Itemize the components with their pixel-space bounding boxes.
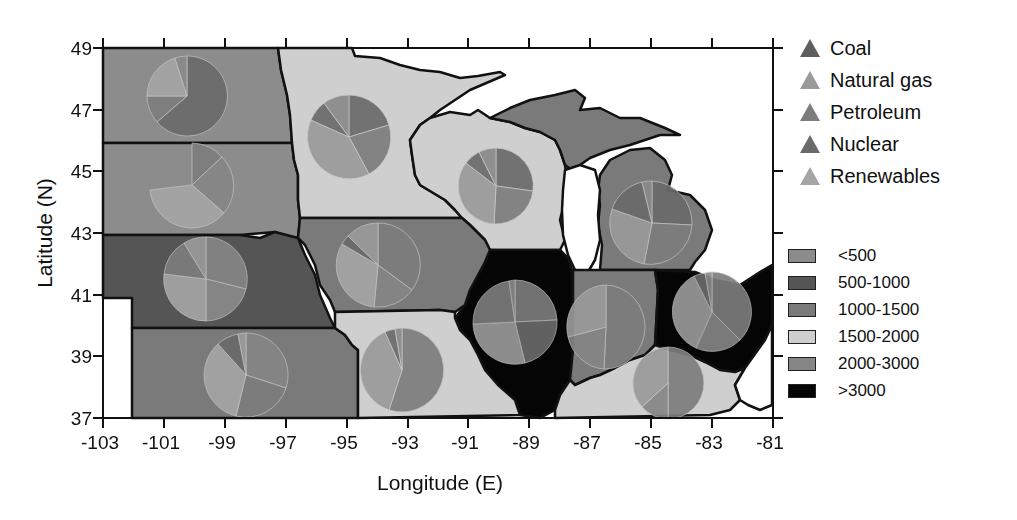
pie-kentucky xyxy=(633,347,704,419)
x-tick-label: -103 xyxy=(81,432,119,453)
x-tick-label: -99 xyxy=(208,432,235,453)
pie-kansas xyxy=(204,333,288,417)
pie-iowa xyxy=(336,223,420,307)
legend-item-lt500: <500 xyxy=(788,242,919,269)
x-tick-label: -91 xyxy=(451,432,478,453)
triangle-icon xyxy=(800,103,820,121)
legend-item-natural-gas: Natural gas xyxy=(800,64,940,96)
legend-item-1000-1500: 1000-1500 xyxy=(788,296,919,323)
y-tick-label: 43 xyxy=(71,223,92,244)
swatch-icon xyxy=(788,330,816,344)
y-tick-label: 39 xyxy=(71,346,92,367)
legend-label: 500-1000 xyxy=(838,273,910,293)
y-tick-labels: 49 47 45 43 41 39 37 xyxy=(71,38,92,429)
swatch-icon xyxy=(788,357,816,371)
pie-indiana xyxy=(567,285,645,369)
y-tick-label: 49 xyxy=(71,38,92,59)
x-tick-label: -85 xyxy=(634,432,661,453)
legend-label: Nuclear xyxy=(830,133,899,156)
pie-michigan xyxy=(610,181,692,264)
legend-item-coal: Coal xyxy=(800,32,940,64)
legend-label: Renewables xyxy=(830,165,940,188)
swatch-icon xyxy=(788,384,816,398)
energy-source-legend: Coal Natural gas Petroleum Nuclear Renew… xyxy=(800,32,940,192)
pie-north-dakota xyxy=(147,56,227,136)
pie-illinois xyxy=(473,280,557,364)
y-axis-title: Latitude (N) xyxy=(33,178,56,288)
legend-label: Petroleum xyxy=(830,101,921,124)
legend-label: 1000-1500 xyxy=(838,300,919,320)
legend-label: 2000-3000 xyxy=(838,354,919,374)
swatch-icon xyxy=(788,276,816,290)
y-tick-label: 47 xyxy=(71,100,92,121)
triangle-icon xyxy=(800,135,820,153)
swatch-icon xyxy=(788,249,816,263)
legend-label: <500 xyxy=(838,246,876,266)
x-tick-label: -83 xyxy=(695,432,722,453)
legend-item-1500-2000: 1500-2000 xyxy=(788,323,919,350)
x-tick-label: -101 xyxy=(142,432,180,453)
x-tick-label: -93 xyxy=(391,432,418,453)
y-tick-label: 45 xyxy=(71,161,92,182)
triangle-icon xyxy=(800,39,820,57)
legend-item-500-1000: 500-1000 xyxy=(788,269,919,296)
y-tick-label: 37 xyxy=(71,408,92,429)
legend-item-petroleum: Petroleum xyxy=(800,96,940,128)
swatch-icon xyxy=(788,303,816,317)
legend-item-2000-3000: 2000-3000 xyxy=(788,350,919,377)
pie-minnesota xyxy=(307,95,390,179)
y-tick-label: 41 xyxy=(71,285,92,306)
legend-item-renewables: Renewables xyxy=(800,160,940,192)
legend-item-nuclear: Nuclear xyxy=(800,128,940,160)
x-tick-label: -81 xyxy=(756,432,783,453)
pie-ohio xyxy=(672,272,751,351)
pie-nebraska xyxy=(164,237,248,321)
legend-label: Natural gas xyxy=(830,69,932,92)
x-tick-label: -87 xyxy=(573,432,600,453)
x-tick-label: -89 xyxy=(512,432,539,453)
consumption-class-legend: <500 500-1000 1000-1500 1500-2000 2000-3… xyxy=(788,242,919,404)
x-tick-label: -97 xyxy=(269,432,296,453)
legend-label: 1500-2000 xyxy=(838,327,919,347)
triangle-icon xyxy=(800,167,820,185)
x-tick-label: -95 xyxy=(330,432,357,453)
legend-label: Coal xyxy=(830,37,871,60)
legend-label: >3000 xyxy=(838,381,886,401)
pie-missouri xyxy=(360,328,443,412)
pie-wisconsin xyxy=(458,148,533,224)
legend-item-gt3000: >3000 xyxy=(788,377,919,404)
x-tick-labels: -103 -101 -99 -97 -95 -93 -91 -89 -87 -8… xyxy=(81,432,784,453)
x-axis-title: Longitude (E) xyxy=(377,471,503,494)
triangle-icon xyxy=(800,71,820,89)
